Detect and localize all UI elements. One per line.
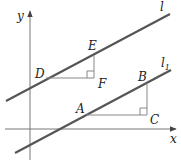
point-A-label: A: [75, 102, 85, 116]
line-l-label: l: [160, 0, 164, 14]
line-l1: [15, 70, 171, 153]
point-E-label: E: [87, 39, 97, 53]
point-D-label: D: [34, 67, 45, 81]
point-F-label: F: [97, 77, 107, 91]
right-angle-F: [87, 71, 94, 78]
line-l: [6, 14, 170, 101]
right-angle-C: [140, 108, 147, 115]
point-B-label: B: [137, 70, 147, 84]
geometry-diagram: x y l l1 D E F A B C: [0, 0, 181, 168]
point-C-label: C: [150, 113, 159, 127]
y-axis-label: y: [16, 9, 24, 23]
x-axis-label: x: [170, 132, 177, 146]
line-l1-label: l1: [161, 56, 170, 72]
diagram-svg: x y l l1 D E F A B C: [0, 0, 181, 168]
